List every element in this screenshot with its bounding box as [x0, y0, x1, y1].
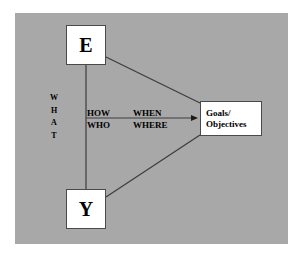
- node-e: E: [66, 25, 106, 65]
- node-goals-line1: Goals/: [206, 108, 231, 119]
- node-e-label: E: [79, 34, 92, 57]
- node-y-label: Y: [79, 198, 93, 221]
- label-how: HOW: [87, 108, 110, 119]
- node-y: Y: [66, 189, 106, 229]
- node-goals-objectives: Goals/ Objectives: [200, 101, 262, 136]
- diagram-canvas: E Y Goals/ Objectives W H A T HOW WHO WH…: [0, 0, 303, 258]
- label-who: WHO: [87, 120, 110, 131]
- label-what-letter-a: A: [47, 117, 61, 130]
- label-what-letter-w: W: [47, 92, 61, 105]
- label-what-letter-h: H: [47, 105, 61, 118]
- label-when: WHEN: [133, 108, 162, 119]
- node-goals-line2: Objectives: [206, 119, 247, 130]
- label-what-letter-t: T: [47, 130, 61, 143]
- label-where: WHERE: [133, 120, 168, 131]
- label-what-vertical: W H A T: [47, 92, 61, 142]
